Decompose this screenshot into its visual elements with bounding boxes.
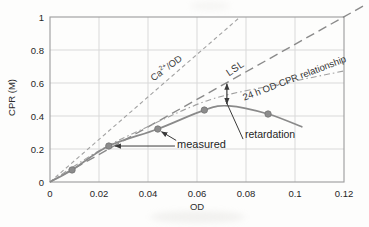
figure: 00.020.040.060.080.10.1200.20.40.60.81 C…	[0, 0, 369, 227]
data-point	[106, 143, 112, 149]
y-tick-label: 1	[39, 12, 44, 23]
data-point	[69, 167, 75, 173]
y-tick-label: 0.2	[31, 144, 44, 155]
x-tick-label: 0.04	[139, 188, 158, 199]
x-tick-label: 0	[47, 188, 52, 199]
data-point	[265, 111, 271, 117]
y-axis-title: CPR (M)	[6, 68, 17, 128]
annotation-measured: measured	[177, 138, 226, 150]
y-tick-label: 0.4	[31, 111, 44, 122]
chart-canvas: 00.020.040.060.080.10.1200.20.40.60.81	[0, 0, 369, 227]
x-tick-label: 0.02	[90, 188, 109, 199]
measured-leader-arrow	[161, 132, 176, 141]
series-short-dash	[50, 17, 240, 182]
scan-artifact	[150, 211, 245, 223]
y-tick-label: 0	[39, 177, 44, 188]
x-tick-label: 0.12	[335, 188, 354, 199]
x-tick-label: 0.06	[188, 188, 207, 199]
annotation-retardation: retardation	[245, 128, 295, 140]
x-tick-label: 0.1	[288, 188, 301, 199]
data-point	[201, 107, 207, 113]
series-long-dash	[50, 5, 365, 182]
y-tick-label: 0.6	[31, 78, 44, 89]
x-tick-label: 0.08	[237, 188, 256, 199]
y-tick-label: 0.8	[31, 45, 44, 56]
scan-artifact	[190, 2, 230, 10]
data-point	[155, 126, 161, 132]
